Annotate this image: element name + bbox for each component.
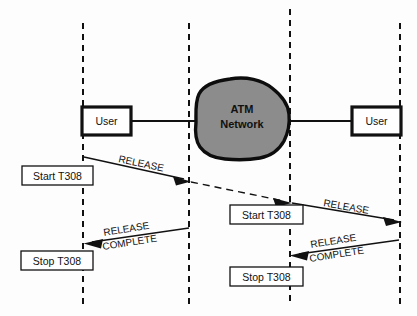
diagram-canvas: ATM Network User User RELEASE RELEASE — [0, 0, 417, 316]
timer-box-start-right: Start T308 — [230, 205, 303, 224]
right-user-node: User — [352, 107, 401, 135]
atm-network-cloud: ATM Network — [195, 78, 289, 160]
cloud-label-line2: Network — [220, 118, 264, 130]
message-release-transit — [191, 182, 292, 207]
timer-box-stop-left-label: Stop T308 — [33, 255, 81, 267]
timer-box-start-left: Start T308 — [22, 166, 93, 185]
message-release-complete-left: RELEASE COMPLETE — [84, 220, 190, 252]
timer-box-stop-left: Stop T308 — [21, 251, 93, 270]
message-release-right-label: RELEASE — [323, 197, 371, 216]
message-release-transit-line — [191, 182, 284, 201]
timer-box-start-left-label: Start T308 — [33, 170, 82, 182]
message-release-left-label: RELEASE — [118, 153, 166, 173]
message-release-complete-right-arrowhead — [290, 251, 310, 261]
right-user-label: User — [365, 115, 388, 127]
sequence-diagram: ATM Network User User RELEASE RELEASE — [0, 0, 417, 316]
timer-box-stop-right: Stop T308 — [230, 267, 303, 286]
cloud-label-line1: ATM — [230, 103, 253, 115]
message-release-right: RELEASE — [292, 197, 402, 226]
left-user-node: User — [82, 107, 131, 135]
message-release-complete-left-arrowhead — [84, 239, 104, 249]
timer-box-start-right-label: Start T308 — [242, 209, 291, 221]
left-user-label: User — [95, 115, 118, 127]
message-release-complete-right: RELEASE COMPLETE — [290, 232, 400, 264]
message-release-left: RELEASE — [84, 153, 191, 185]
timer-box-stop-right-label: Stop T308 — [242, 271, 290, 283]
